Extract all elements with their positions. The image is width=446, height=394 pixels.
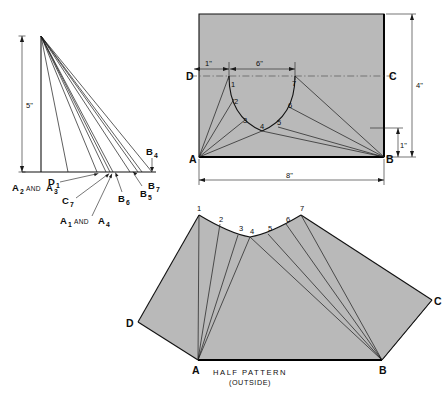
pattern-point-5: 5	[268, 224, 272, 233]
left-a2-letter: A	[12, 182, 19, 193]
left-a1-sub: 1	[68, 221, 72, 228]
pattern-label-b: B	[379, 364, 387, 376]
pattern-point-7: 7	[300, 204, 304, 213]
left-dimension-5in: 5"	[26, 101, 33, 110]
left-label-b7: B 7	[148, 180, 160, 193]
plan-dim-8in: 8"	[286, 171, 293, 180]
left-b7-sub: 7	[156, 186, 160, 193]
plan-dim-4in: 6"	[256, 59, 263, 68]
left-b6-letter: B	[118, 193, 125, 204]
plan-point-2: 2	[234, 97, 238, 106]
pattern-point-3: 3	[239, 224, 243, 233]
left-label-c7: C 7	[62, 173, 109, 208]
technical-drawing-figure: 5" B 4 D 1 B	[0, 0, 446, 394]
pattern-label-d: D	[126, 317, 134, 329]
pattern-label-c: C	[434, 295, 442, 307]
plan-label-b: B	[386, 153, 394, 165]
pattern-point-1: 1	[197, 204, 201, 213]
left-radiating-lines	[41, 36, 152, 172]
pattern-point-2: 2	[219, 215, 223, 224]
plan-point-1: 1	[231, 80, 235, 89]
left-true-length-view: 5" B 4 D 1 B	[12, 36, 160, 228]
plan-dimension-width: 8"	[199, 159, 384, 185]
plan-dim-6in: 4"	[416, 81, 423, 90]
pattern-label-a: A	[192, 364, 200, 376]
plan-point-5: 5	[277, 118, 281, 127]
left-a3-sub: 3	[54, 188, 58, 195]
left-label-b6: B 6	[115, 172, 130, 206]
left-a1-letter: A	[60, 215, 67, 226]
pattern-caption-line1: HALF PATTERN	[213, 368, 287, 377]
plan-label-c: C	[389, 70, 397, 82]
left-a4-sub: 4	[106, 221, 110, 228]
plan-dim-1in-left: 1"	[205, 59, 212, 68]
left-a4-letter: A	[98, 215, 105, 226]
pattern-caption-line2: (OUTSIDE)	[229, 378, 271, 387]
plan-point-4: 4	[260, 122, 264, 131]
left-b5-sub: 5	[148, 194, 152, 201]
left-a3-letter: A	[46, 182, 53, 193]
left-b4-sub: 4	[154, 152, 158, 159]
plan-dim-1in-bottom: 1"	[400, 141, 407, 150]
left-b4-letter: B	[146, 146, 153, 157]
pattern-point-6: 6	[286, 215, 290, 224]
plan-point-6: 6	[288, 101, 292, 110]
left-b6-sub: 6	[126, 199, 130, 206]
left-label-b4: B 4	[146, 146, 158, 172]
plan-label-a: A	[189, 153, 197, 165]
left-a2-sub: 2	[20, 188, 24, 195]
pattern-fill	[138, 215, 432, 360]
bottom-half-pattern-view: 1 2 3 4 5 6 7 A B C D HALF PATTERN (OUTS…	[126, 204, 442, 387]
pattern-point-4: 4	[250, 227, 254, 236]
left-c7-sub: 7	[70, 201, 74, 208]
plan-label-d: D	[186, 70, 194, 82]
plan-point-7: 7	[292, 79, 296, 88]
plan-dimension-height: 4"	[386, 14, 423, 157]
top-plan-view: 1 2 3 4 5 6 7 A B C D 1" 6"	[186, 14, 423, 185]
left-vertical-dimension: 5"	[19, 36, 34, 172]
left-b7-letter: B	[148, 180, 155, 191]
plan-point-3: 3	[243, 116, 247, 125]
left-a2a3-and: AND	[26, 185, 41, 192]
left-b5-letter: B	[140, 188, 147, 199]
left-a1a4-and: AND	[74, 218, 89, 225]
left-c7-letter: C	[62, 195, 69, 206]
